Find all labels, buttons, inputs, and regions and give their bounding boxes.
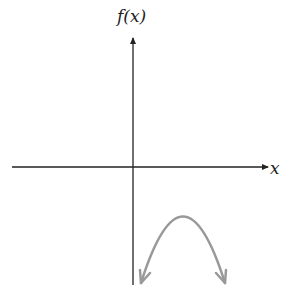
y-axis-label: f(x): [117, 6, 146, 26]
coordinate-plane: [0, 0, 295, 294]
graph: f(x) x: [0, 0, 295, 294]
x-axis-label: x: [270, 158, 280, 178]
parabola-curve: [140, 217, 226, 284]
